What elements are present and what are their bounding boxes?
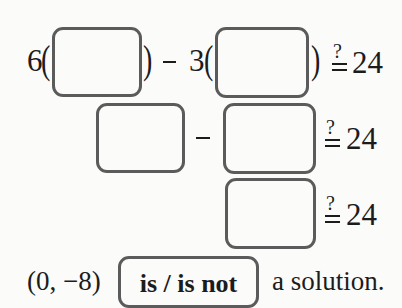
choice-label: is / is not [140,271,238,297]
questioned-equals-sign: ? [332,44,348,74]
blank-x-value-box[interactable] [52,27,142,97]
solution-suffix: a solution. [272,268,385,295]
ordered-pair: (0, −8) [27,268,101,295]
minus-sign [163,61,176,63]
blank-result-box[interactable] [225,178,316,249]
questioned-equals-sign: ? [325,196,341,226]
open-paren: ( [204,40,213,80]
blank-second-term-box[interactable] [223,103,316,174]
rhs-value: 24 [352,47,383,78]
blank-y-value-box[interactable] [215,27,309,98]
is-or-is-not-choice-box[interactable]: is / is not [118,256,259,308]
close-paren: ) [143,40,152,80]
questioned-equals-sign: ? [325,120,341,150]
close-paren: ) [311,40,320,80]
blank-first-term-box[interactable] [96,103,185,173]
rhs-value: 24 [346,123,377,154]
coefficient-3: 3 [189,45,205,76]
open-paren: ( [41,40,50,80]
minus-sign [196,137,210,139]
rhs-value: 24 [346,199,377,230]
